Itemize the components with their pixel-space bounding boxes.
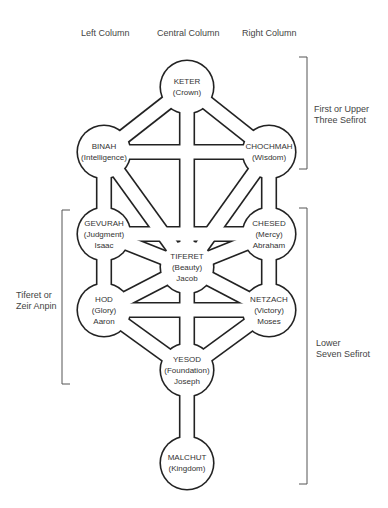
tree-of-life-diagram: Left Column Central Column Right Column … xyxy=(0,0,388,508)
sefirah-keter-label: KETER(Crown) xyxy=(155,76,219,98)
sefirah-netzach-meaning: (Victory) xyxy=(237,305,301,316)
sefirah-tiferet-label: TIFERET(Beauty)Jacob xyxy=(155,251,219,284)
sefirah-chochmah-meaning: (Wisdom) xyxy=(237,152,301,163)
sefirah-chesed-meaning: (Mercy) xyxy=(237,229,301,240)
sefirah-gevurah-label: GEVURAH(Judgment)Isaac xyxy=(72,218,136,251)
left-column-heading: Left Column xyxy=(81,28,130,38)
tiferet-label-line-1: Tiferet or xyxy=(16,290,57,301)
sefirah-hod-figure: Aaron xyxy=(72,316,136,327)
sefirah-netzach-label: NETZACH(Victory)Moses xyxy=(237,294,301,327)
sefirah-netzach-figure: Moses xyxy=(237,316,301,327)
right-column-heading: Right Column xyxy=(242,28,297,38)
sefirah-yesod-meaning: (Foundation) xyxy=(155,365,219,376)
sefirah-chesed-name: CHESED xyxy=(237,218,301,229)
sefirah-hod-name: HOD xyxy=(72,294,136,305)
sefirah-yesod-name: YESOD xyxy=(155,354,219,365)
tiferet-bracket xyxy=(62,210,70,384)
sefirah-gevurah-figure: Isaac xyxy=(72,240,136,251)
lower-seven-line-1: Lower xyxy=(316,338,370,349)
sefirah-binah-label: BINAH(Intelligence) xyxy=(72,141,136,163)
sefirah-yesod-figure: Joseph xyxy=(155,376,219,387)
sefirah-hod-label: HOD(Glory)Aaron xyxy=(72,294,136,327)
sefirah-tiferet-meaning: (Beauty) xyxy=(155,262,219,273)
lower-seven-label: Lower Seven Sefirot xyxy=(316,338,370,360)
sefirah-malchut-name: MALCHUT xyxy=(155,452,219,463)
sefirah-chochmah-name: CHOCHMAH xyxy=(237,141,301,152)
tiferet-zeir-anpin-label: Tiferet or Zeir Anpin xyxy=(16,290,57,312)
upper-three-line-2: Three Sefirot xyxy=(314,115,369,126)
sefirah-malchut-meaning: (Kingdom) xyxy=(155,463,219,474)
sefirah-tiferet-name: TIFERET xyxy=(155,251,219,262)
sefirah-chesed-label: CHESED(Mercy)Abraham xyxy=(237,218,301,251)
lower-seven-line-2: Seven Sefirot xyxy=(316,349,370,360)
sefirah-malchut-label: MALCHUT(Kingdom) xyxy=(155,452,219,474)
central-column-heading: Central Column xyxy=(157,28,220,38)
sefirah-binah-name: BINAH xyxy=(72,141,136,152)
sefirah-netzach-name: NETZACH xyxy=(237,294,301,305)
sefirah-binah-meaning: (Intelligence) xyxy=(72,152,136,163)
upper-three-label: First or Upper Three Sefirot xyxy=(314,104,369,126)
sefirah-chochmah-label: CHOCHMAH(Wisdom) xyxy=(237,141,301,163)
sefirah-chesed-figure: Abraham xyxy=(237,240,301,251)
sefirah-keter-meaning: (Crown) xyxy=(155,87,219,98)
sefirah-gevurah-name: GEVURAH xyxy=(72,218,136,229)
upper-three-line-1: First or Upper xyxy=(314,104,369,115)
sefirah-tiferet-figure: Jacob xyxy=(155,273,219,284)
sefirah-gevurah-meaning: (Judgment) xyxy=(72,229,136,240)
sefirah-hod-meaning: (Glory) xyxy=(72,305,136,316)
sefirah-keter-name: KETER xyxy=(155,76,219,87)
tiferet-label-line-2: Zeir Anpin xyxy=(16,301,57,312)
sefirah-yesod-label: YESOD(Foundation)Joseph xyxy=(155,354,219,387)
